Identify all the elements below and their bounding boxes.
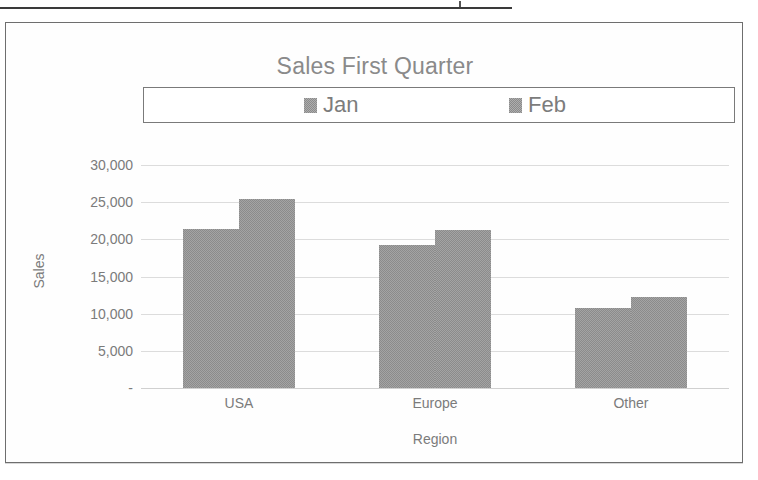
x-axis-tick-labels: USAEuropeOther xyxy=(141,395,729,417)
plot-area xyxy=(141,165,729,388)
legend-swatch-icon-jan xyxy=(304,98,317,113)
x-axis-tick-label-europe: Europe xyxy=(355,395,515,411)
y-axis-tick-label: 30,000 xyxy=(43,157,133,173)
y-axis-tick-label: 10,000 xyxy=(43,306,133,322)
bar-group-europe xyxy=(379,165,491,388)
page-tick-mark xyxy=(459,1,461,7)
x-axis-tick-label-usa: USA xyxy=(159,395,319,411)
legend-label-feb: Feb xyxy=(528,92,566,118)
bar-jan-usa[interactable] xyxy=(183,229,239,388)
bar-jan-europe[interactable] xyxy=(379,245,435,388)
bar-group-other xyxy=(575,165,687,388)
y-axis-tick-label: 15,000 xyxy=(43,269,133,285)
gridline xyxy=(141,388,729,389)
bar-feb-other[interactable] xyxy=(631,297,687,388)
y-axis-tick-labels: 30,00025,00020,00015,00010,0005,000- xyxy=(41,165,141,388)
bar-feb-usa[interactable] xyxy=(239,199,295,388)
legend-entry-jan[interactable]: Jan xyxy=(304,92,358,118)
y-axis-tick-label: - xyxy=(43,380,133,396)
x-axis-title: Region xyxy=(141,431,729,447)
chart-title: Sales First Quarter xyxy=(6,53,744,80)
x-axis-tick-label-other: Other xyxy=(551,395,711,411)
legend-label-jan: Jan xyxy=(323,92,358,118)
legend-entry-feb[interactable]: Feb xyxy=(509,92,566,118)
y-axis-tick-label: 5,000 xyxy=(43,343,133,359)
chart-frame: Sales First Quarter Jan Feb Sales 30,000… xyxy=(5,22,743,463)
bar-jan-other[interactable] xyxy=(575,308,631,388)
bar-group-usa xyxy=(183,165,295,388)
bar-feb-europe[interactable] xyxy=(435,230,491,388)
y-axis-tick-label: 20,000 xyxy=(43,231,133,247)
legend-swatch-icon-feb xyxy=(509,98,522,113)
chart-legend[interactable]: Jan Feb xyxy=(143,87,735,123)
page-horizontal-rule xyxy=(0,7,512,9)
y-axis-tick-label: 25,000 xyxy=(43,194,133,210)
